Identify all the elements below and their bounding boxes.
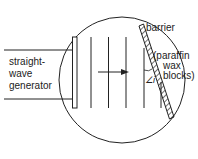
label-material-line3: blocks) — [163, 70, 195, 81]
angle-arc — [144, 69, 152, 71]
label-barrier: barrier — [146, 22, 176, 33]
label-generator-line3: generator — [9, 80, 52, 91]
ripple-tank-diagram: straight- wave generator barrier (paraff… — [0, 0, 198, 159]
label-angle-i: ∠i — [145, 75, 156, 85]
wave-generator-bar — [73, 37, 78, 108]
label-generator-line2: wave — [8, 68, 33, 79]
label-generator-line1: straight- — [9, 56, 45, 67]
propagation-arrow-icon — [98, 69, 129, 75]
